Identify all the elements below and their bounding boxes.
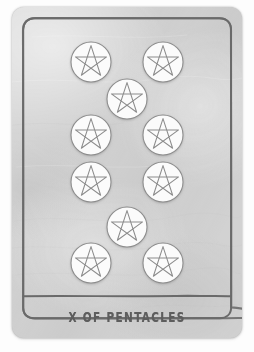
pentacle bbox=[71, 115, 111, 155]
pentacle bbox=[107, 207, 147, 247]
pentagram-star bbox=[111, 83, 142, 113]
pentacle-circle bbox=[143, 115, 183, 155]
pentacle bbox=[143, 42, 183, 82]
frame-outline-ink bbox=[23, 18, 231, 318]
pentacle bbox=[143, 243, 183, 283]
title-divider bbox=[24, 296, 231, 297]
pentacle-circle bbox=[143, 243, 183, 283]
pentacle bbox=[143, 115, 183, 155]
pentacle bbox=[107, 79, 147, 119]
pentagram-star bbox=[147, 46, 178, 76]
pentacle-circle bbox=[71, 243, 111, 283]
tarot-card[interactable]: X OF PENTACLES bbox=[12, 7, 242, 338]
pentacles-layer bbox=[12, 7, 242, 338]
card-border-frame bbox=[12, 7, 242, 338]
pentacle bbox=[71, 162, 111, 202]
pentagram-star bbox=[75, 119, 106, 149]
paper-fiber-streaks bbox=[12, 7, 242, 338]
pentacle-circle bbox=[71, 162, 111, 202]
pentacle bbox=[143, 162, 183, 202]
pentacle-circle bbox=[107, 79, 147, 119]
pentagram-star bbox=[147, 247, 178, 277]
pentacle-circle bbox=[71, 115, 111, 155]
pentagram-star bbox=[147, 166, 178, 196]
pentacle-circle bbox=[143, 162, 183, 202]
pentagram-star bbox=[75, 46, 106, 76]
frame-outline bbox=[23, 18, 242, 318]
pentacle-circle bbox=[107, 207, 147, 247]
pentagram-star bbox=[111, 211, 142, 241]
card-title: X OF PENTACLES bbox=[35, 307, 219, 327]
pentagram-star bbox=[75, 166, 106, 196]
pentacle bbox=[71, 42, 111, 82]
paper-texture bbox=[12, 7, 242, 338]
pentacle-circle bbox=[71, 42, 111, 82]
tarot-card-stage: X OF PENTACLES bbox=[0, 0, 254, 352]
pentagram-star bbox=[147, 119, 178, 149]
pentacle-circle bbox=[143, 42, 183, 82]
pentagram-star bbox=[75, 247, 106, 277]
pentacle bbox=[71, 243, 111, 283]
